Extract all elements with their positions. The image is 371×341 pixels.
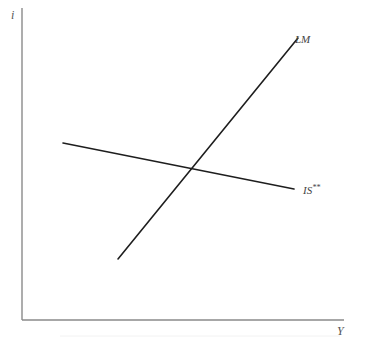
is-curve-label: IS** [302,183,320,196]
is-lm-diagram: i Y LM IS** [0,0,371,341]
lm-curve [118,38,298,259]
is-curve-label-superscript: ** [312,183,320,192]
x-axis-label: Y [337,324,345,338]
y-axis-label: i [11,8,14,22]
is-curve [63,143,294,189]
lm-curve-label: LM [294,33,311,45]
is-curve-label-base: IS [302,184,313,196]
